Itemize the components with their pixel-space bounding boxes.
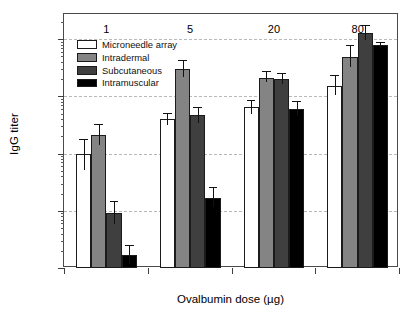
error-bar <box>99 124 100 145</box>
chart-figure: IgG titer 102103104105106152080 Ovalbumi… <box>0 0 411 321</box>
y-axis-tick-major <box>58 96 64 97</box>
y-axis-tick-minor <box>61 62 65 63</box>
error-bar-cap <box>110 201 119 202</box>
error-bar <box>251 100 252 114</box>
y-axis-tick-minor <box>61 136 65 137</box>
y-axis-tick-minor <box>61 159 65 160</box>
x-axis-title: Ovalbumin dose (µg) <box>63 293 398 305</box>
error-bar-cap <box>79 139 88 140</box>
bar <box>205 198 220 268</box>
error-bar-cap <box>209 187 218 188</box>
error-bar <box>266 71 267 82</box>
bar <box>259 78 274 268</box>
y-axis-tick-minor <box>61 176 65 177</box>
y-axis-tick-minor <box>61 223 65 224</box>
y-axis-tick-minor <box>61 79 65 80</box>
error-bar-cap <box>125 245 134 246</box>
bar <box>244 107 259 268</box>
y-axis-tick-minor <box>61 22 65 23</box>
error-bar-cap <box>292 101 301 102</box>
y-axis-tick-minor <box>61 45 65 46</box>
legend-label: Microneedle array <box>102 40 177 49</box>
y-axis-tick-minor <box>61 48 65 49</box>
y-axis-tick-major <box>58 211 64 212</box>
bar <box>342 57 357 268</box>
x-axis-tick <box>148 268 149 274</box>
y-axis-tick-minor <box>61 220 65 221</box>
x-axis-tick-label: 1 <box>103 23 109 35</box>
error-bar-cap <box>376 42 385 43</box>
bar <box>373 45 388 268</box>
y-axis-tick-minor <box>61 251 65 252</box>
y-axis-tick-minor <box>61 52 65 53</box>
error-bar <box>167 113 168 126</box>
bar <box>160 119 175 268</box>
chart-legend: Microneedle arrayIntradermalSubcutaneous… <box>77 39 177 90</box>
y-axis-tick-minor <box>61 105 65 106</box>
error-bar-cap <box>277 73 286 74</box>
y-axis-tick-major <box>58 154 64 155</box>
y-axis-tick-minor <box>61 109 65 110</box>
error-bar-cap <box>330 75 339 76</box>
legend-item: Intramuscular <box>77 77 177 88</box>
y-axis-title: IgG titer <box>8 94 20 174</box>
x-axis-tick-label: 5 <box>187 23 193 35</box>
y-axis-tick-minor <box>61 194 65 195</box>
x-axis-tick-label: 20 <box>268 23 280 35</box>
error-bar-cap <box>247 100 256 101</box>
legend-item: Intradermal <box>77 52 177 63</box>
x-axis-tick <box>399 268 400 274</box>
legend-swatch <box>77 79 97 88</box>
error-bar-cap <box>193 107 202 108</box>
error-bar <box>114 201 115 225</box>
legend-label: Intramuscular <box>102 78 159 87</box>
y-axis-tick-minor <box>61 228 65 229</box>
error-bar-cap <box>262 71 271 72</box>
legend-label: Intradermal <box>102 53 149 62</box>
error-bar <box>350 45 351 67</box>
y-axis-tick-minor <box>61 99 65 100</box>
legend-swatch <box>77 40 97 49</box>
x-axis-tick-label: 80 <box>352 23 364 35</box>
error-bar <box>365 25 366 40</box>
bar <box>175 69 190 268</box>
error-bar <box>183 60 184 77</box>
error-bar <box>213 187 214 207</box>
y-axis-tick-minor <box>61 156 65 157</box>
y-axis-tick-minor <box>61 119 65 120</box>
y-axis-tick-minor <box>61 56 65 57</box>
error-bar <box>129 245 130 264</box>
error-bar <box>282 73 283 84</box>
y-axis-tick-minor <box>61 126 65 127</box>
bar <box>358 33 373 268</box>
y-axis-tick-minor <box>61 213 65 214</box>
legend-item: Microneedle array <box>77 39 177 50</box>
x-axis-tick <box>232 268 233 274</box>
x-axis-tick <box>64 268 65 274</box>
x-axis-tick <box>315 268 316 274</box>
y-axis-tick-minor <box>61 114 65 115</box>
error-bar-cap <box>346 45 355 46</box>
error-bar-cap <box>163 113 172 114</box>
legend-label: Subcutaneous <box>102 66 162 75</box>
legend-swatch <box>77 66 97 75</box>
y-axis-tick-minor <box>61 69 65 70</box>
bar <box>91 135 106 268</box>
y-axis-tick-minor <box>61 216 65 217</box>
error-bar <box>84 139 85 170</box>
error-bar <box>198 107 199 123</box>
error-bar <box>335 75 336 95</box>
error-bar <box>297 101 298 116</box>
bar <box>76 154 91 268</box>
bar <box>274 79 289 268</box>
bar <box>327 86 342 268</box>
error-bar-cap <box>178 60 187 61</box>
bar <box>289 109 304 268</box>
y-axis-tick-minor <box>61 166 65 167</box>
bar <box>190 115 205 268</box>
y-axis-tick-major <box>58 39 64 40</box>
legend-swatch <box>77 53 97 62</box>
y-axis-tick-minor <box>61 162 65 163</box>
y-axis-tick-minor <box>61 234 65 235</box>
y-axis-tick-minor <box>61 42 65 43</box>
